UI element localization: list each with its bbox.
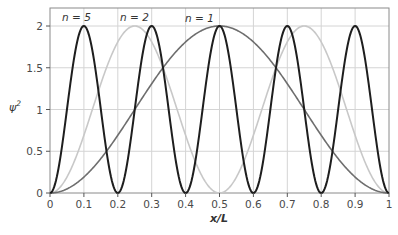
x-tick-label: 0.3 xyxy=(143,198,160,210)
x-tick-label: 0.5 xyxy=(211,198,228,210)
grid-lines xyxy=(50,8,389,193)
y-axis-title: ψ2 xyxy=(9,99,21,114)
x-tick-label: 0.2 xyxy=(109,198,126,210)
x-tick-label: 0.9 xyxy=(347,198,364,210)
wavefunction-probability-chart: 00.10.20.30.40.50.60.70.80.91 00.511.52 … xyxy=(0,0,398,235)
y-tick-label: 0 xyxy=(36,187,43,199)
x-tick-label: 0.6 xyxy=(245,198,262,210)
y-tick-label: 1.5 xyxy=(26,62,43,74)
x-tick-label: 0.1 xyxy=(76,198,93,210)
label-n1: n = 1 xyxy=(185,12,214,24)
x-axis-ticks: 00.10.20.30.40.50.60.70.80.91 xyxy=(47,193,393,210)
x-tick-label: 0.7 xyxy=(279,198,296,210)
x-tick-label: 0.4 xyxy=(177,198,194,210)
x-tick-label: 0.8 xyxy=(313,198,330,210)
label-n2: n = 2 xyxy=(120,11,149,23)
x-axis-title: x/L xyxy=(209,212,228,225)
y-axis-ticks: 00.511.52 xyxy=(26,20,50,199)
label-n5: n = 5 xyxy=(62,11,91,23)
y-tick-label: 1 xyxy=(36,104,43,116)
x-tick-label: 1 xyxy=(386,198,393,210)
y-tick-label: 2 xyxy=(36,20,43,32)
x-tick-label: 0 xyxy=(47,198,54,210)
y-tick-label: 0.5 xyxy=(26,145,43,157)
